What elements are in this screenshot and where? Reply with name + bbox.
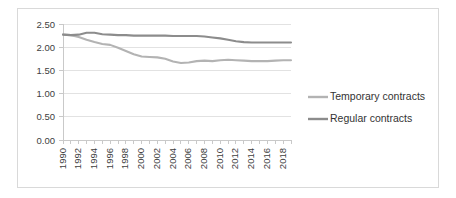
x-axis-label: 2016 (261, 148, 272, 169)
x-axis-label: 2012 (229, 148, 240, 169)
legend-label-temporary-contracts: Temporary contracts (330, 90, 425, 102)
y-axis-label: 1.50 (37, 65, 56, 76)
x-axis-label: 2004 (167, 148, 178, 169)
plot-area: 0.000.501.001.502.002.501990199219941996… (18, 9, 440, 189)
y-axis-label: 0.50 (37, 111, 56, 122)
x-axis-label: 2000 (135, 148, 146, 169)
line-chart: 0.000.501.001.502.002.501990199219941996… (18, 9, 440, 189)
x-axis-label: 2008 (198, 148, 209, 169)
x-axis-label: 1990 (57, 148, 68, 169)
x-axis-label: 2018 (277, 148, 288, 169)
x-axis-label: 1998 (119, 148, 130, 169)
y-axis-label: 1.00 (37, 88, 56, 99)
y-axis-label: 2.50 (37, 19, 56, 30)
x-axis-label: 2010 (214, 148, 225, 169)
y-axis-label: 0.00 (37, 135, 56, 146)
x-axis-label: 1992 (72, 148, 83, 169)
x-axis-label: 1996 (104, 148, 115, 169)
x-axis-label: 2014 (245, 148, 256, 169)
x-axis-label: 2002 (151, 148, 162, 169)
x-axis-label: 2006 (182, 148, 193, 169)
chart-container: 0.000.501.001.502.002.501990199219941996… (17, 8, 439, 188)
legend-label-regular-contracts: Regular contracts (330, 112, 412, 124)
data-line-temporary-contracts (63, 35, 291, 63)
y-axis-label: 2.00 (37, 42, 56, 53)
x-axis-label: 1994 (88, 148, 99, 169)
data-line-regular-contracts (63, 33, 291, 43)
